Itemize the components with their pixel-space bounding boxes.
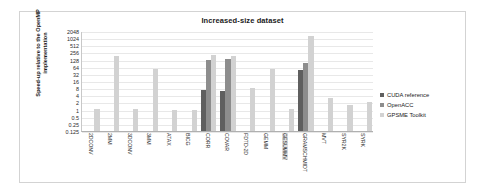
x-axis-tick-label: FDTD-2D bbox=[243, 133, 249, 155]
bar[interactable] bbox=[153, 69, 158, 131]
legend-item[interactable]: CUDA reference bbox=[380, 92, 464, 98]
bar[interactable] bbox=[114, 56, 119, 131]
y-axis-tick-label: 8 bbox=[49, 86, 79, 92]
bar[interactable] bbox=[133, 109, 138, 131]
legend-item[interactable]: GPSME Toolkit bbox=[380, 112, 464, 118]
legend-item[interactable]: OpenACC bbox=[380, 102, 464, 108]
bar-cluster bbox=[257, 32, 276, 131]
bar-cluster bbox=[335, 32, 354, 131]
x-axis-tick-label: GRAMSCHMIDT bbox=[302, 133, 308, 172]
legend-label: GPSME Toolkit bbox=[387, 112, 426, 118]
y-axis-title: Speed-up relative to the OpenMP implemen… bbox=[35, 7, 49, 99]
legend-label: CUDA reference bbox=[387, 92, 429, 98]
bar[interactable] bbox=[211, 55, 216, 131]
x-axis-tick-label: 2DCONV bbox=[88, 133, 94, 154]
legend-label: OpenACC bbox=[387, 102, 413, 108]
bar-cluster bbox=[121, 32, 140, 131]
bar[interactable] bbox=[367, 102, 372, 131]
y-axis-tick-label: 2 bbox=[49, 100, 79, 106]
bar-cluster bbox=[101, 32, 120, 131]
y-axis-tick-label: 1024 bbox=[49, 36, 79, 42]
bar[interactable] bbox=[270, 69, 275, 131]
bar-cluster bbox=[179, 32, 198, 131]
x-axis-tick-label: GEMM bbox=[263, 133, 269, 149]
x-axis-tick-label: COVAR bbox=[224, 133, 230, 151]
y-axis-tick-label: 1 bbox=[49, 108, 79, 114]
y-axis-tick-label: 2048 bbox=[49, 29, 79, 35]
x-axis-tick-label: CORR bbox=[205, 133, 211, 148]
bar[interactable] bbox=[94, 109, 99, 131]
chart-legend: CUDA reference OpenACC GPSME Toolkit bbox=[380, 92, 464, 122]
y-axis-tick-label: 512 bbox=[49, 43, 79, 49]
y-axis-tick-label: 0.5 bbox=[49, 115, 79, 121]
bar[interactable] bbox=[308, 36, 313, 131]
x-axis-tick-label: 3MM bbox=[146, 133, 152, 144]
chart-title: Increased-size dataset bbox=[20, 16, 465, 25]
y-axis-tick-label: 0.125 bbox=[49, 129, 79, 135]
x-axis-tick-label: GESUMMV bbox=[282, 133, 288, 160]
bar-cluster bbox=[355, 32, 374, 131]
bar[interactable] bbox=[231, 56, 236, 131]
x-axis-tick-label: ATAX bbox=[166, 133, 172, 146]
legend-swatch-gpsme-toolkit bbox=[380, 113, 384, 117]
y-axis-tick-label: 32 bbox=[49, 72, 79, 78]
bar-cluster bbox=[199, 32, 218, 131]
y-axis-tick-label: 0.25 bbox=[49, 122, 79, 128]
x-axis-tick-label: SYRK bbox=[360, 133, 366, 147]
legend-swatch-openacc bbox=[380, 103, 384, 107]
y-axis-tick-label: 16 bbox=[49, 79, 79, 85]
bar-cluster bbox=[140, 32, 159, 131]
bar-cluster bbox=[238, 32, 257, 131]
x-axis-tick-label: 2MM bbox=[107, 133, 113, 144]
bar[interactable] bbox=[172, 110, 177, 131]
legend-swatch-cuda-reference bbox=[380, 93, 384, 97]
bar[interactable] bbox=[328, 98, 333, 131]
y-axis-tick-label: 64 bbox=[49, 65, 79, 71]
plot-area: 2048102451225612864321684210.50.250.1252… bbox=[81, 32, 373, 132]
y-axis-tick-label: 128 bbox=[49, 58, 79, 64]
y-axis-tick-label: 256 bbox=[49, 50, 79, 56]
x-axis-tick-label: MVT bbox=[321, 133, 327, 144]
bar[interactable] bbox=[289, 109, 294, 131]
bar-cluster bbox=[160, 32, 179, 131]
x-axis-tick-label: 3DCONV bbox=[127, 133, 133, 154]
bar-cluster bbox=[316, 32, 335, 131]
bar-cluster bbox=[296, 32, 315, 131]
x-axis-tick-label: BICG bbox=[185, 133, 191, 146]
bar[interactable] bbox=[347, 105, 352, 131]
bar-cluster bbox=[277, 32, 296, 131]
x-axis-tick-label: SYR2K bbox=[341, 133, 347, 150]
bar-cluster bbox=[82, 32, 101, 131]
y-axis-tick-label: 4 bbox=[49, 93, 79, 99]
bar-cluster bbox=[218, 32, 237, 131]
bar[interactable] bbox=[192, 110, 197, 131]
bar[interactable] bbox=[250, 88, 255, 131]
chart-container: Increased-size dataset Speed-up relative… bbox=[19, 11, 466, 183]
